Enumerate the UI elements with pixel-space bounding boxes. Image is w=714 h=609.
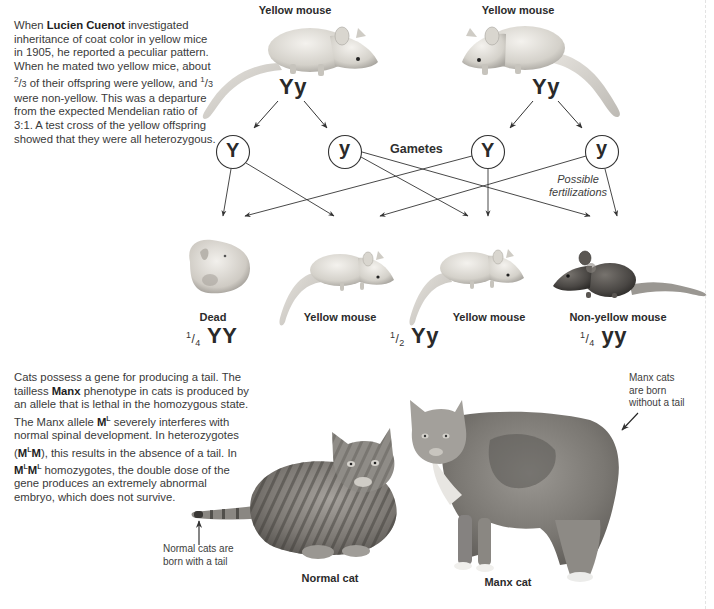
manx-cat-caption: Manx cats are born without a tail <box>629 372 685 410</box>
parent-mouse-1-image <box>203 27 378 119</box>
gamete-Y-2-label: Y <box>481 139 495 162</box>
gamete-Y-1-label: Y <box>226 139 240 162</box>
offspring-yellow-1-label: Yellow mouse <box>300 311 380 323</box>
parent-1-genotype: Yy <box>279 74 307 100</box>
offspring-non-yellow-label: Non-yellow mouse <box>565 311 671 323</box>
offspring-Yy-ratio: 1/2 Yy <box>390 323 439 349</box>
gamete-y-2-label: y <box>596 137 608 160</box>
parent-1-label: Yellow mouse <box>255 4 335 16</box>
offspring-yy-ratio: 1/4 yy <box>580 323 627 349</box>
offspring-dead-label: Dead <box>190 311 236 323</box>
page-edge-divider <box>705 0 706 609</box>
parent-2-label: Yellow mouse <box>478 4 558 16</box>
offspring-non-yellow-mouse-image <box>553 251 706 298</box>
gametes-label: Gametes <box>390 142 443 156</box>
normal-cat-caption: Normal cats are born with a tail <box>163 543 234 568</box>
normal-cat-label: Normal cat <box>295 572 365 584</box>
parent-gamete-arrows <box>254 101 582 128</box>
manx-cat-label: Manx cat <box>478 576 538 588</box>
cross-diagram <box>0 0 714 609</box>
manx-cat-arrow <box>622 413 638 430</box>
possible-fertilizations-label: Possible fertilizations <box>542 173 614 199</box>
parent-mouse-2-image <box>462 26 620 117</box>
manx-cat-image <box>410 400 619 582</box>
offspring-YY-ratio: 1/4 YY <box>186 323 237 349</box>
parent-2-genotype: Yy <box>532 74 560 100</box>
offspring-yellow-2-label: Yellow mouse <box>449 311 529 323</box>
dead-embryo-image <box>189 240 250 294</box>
gamete-y-1-label: y <box>339 137 351 160</box>
manx-paragraph: Cats possess a gene for producing a tail… <box>14 371 250 505</box>
